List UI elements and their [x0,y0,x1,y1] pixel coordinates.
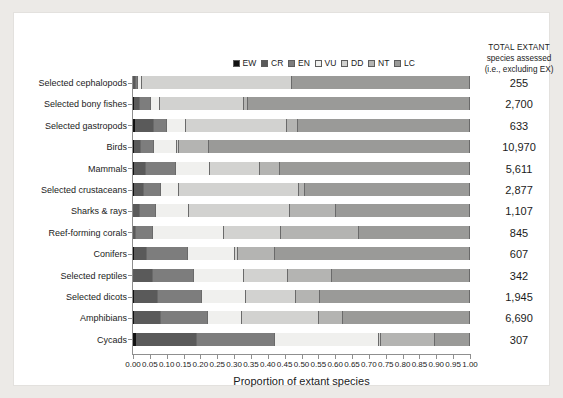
bar-segment-dd [210,162,260,175]
bar-segment-dd [246,290,297,303]
legend-label-lc: LC [404,58,415,68]
bar-segment-lc [305,183,470,196]
bar-segment-en [136,226,153,239]
total-extant-value: 10,970 [477,141,561,153]
y-axis-label: Reef-forming corals [15,228,127,238]
total-extant-value: 342 [477,270,561,282]
legend-swatch-cr-icon [261,60,268,67]
bar-segment-vu [188,247,235,260]
bar-row [133,269,470,282]
bar-segment-en [158,290,202,303]
legend-swatch-en-icon [288,60,295,67]
bar-row [133,333,470,346]
bar-segment-lc [292,76,470,89]
bar-segment-cr [134,290,158,303]
bar-segment-cr [136,333,197,346]
legend-swatch-ew-icon [233,60,240,67]
bar-segment-cr [133,269,153,282]
y-axis-label: Sharks & rays [15,206,127,216]
x-axis-title: Proportion of extant species [133,375,470,387]
bar-row [133,226,470,239]
bar-segment-cr [134,247,147,260]
bar-segment-nt [296,290,320,303]
total-extant-line3: (i.e., excluding EX) [470,64,563,75]
total-extant-value: 1,107 [477,205,561,217]
bar-segment-dd [244,269,288,282]
total-extant-value: 2,877 [477,184,561,196]
y-axis-label: Birds [15,142,127,152]
bar-segment-cr [134,311,161,324]
x-axis-tick [150,355,151,359]
x-axis-tick [285,355,286,359]
x-axis-tick [167,355,168,359]
bar-row [133,204,470,217]
bar-segment-lc [209,140,470,153]
bar-segment-cr [134,162,146,175]
x-axis-tick [234,355,235,359]
bar-row [133,290,470,303]
x-axis-tick [302,355,303,359]
bar-segment-nt [319,311,343,324]
bar-segment-en [146,162,176,175]
bar-segment-lc [248,97,470,110]
bar-segment-lc [343,311,470,324]
bar-row [133,76,470,89]
legend-label-cr: CR [271,58,283,68]
x-axis-tick [335,355,336,359]
bar-segment-en [140,97,150,110]
total-extant-value: 5,611 [477,163,561,175]
bar-segment-lc [280,162,470,175]
y-axis-label: Selected dicots [15,292,127,302]
y-axis-tick [128,125,133,126]
bar-segment-dd [160,97,244,110]
bar-segment-en [161,311,208,324]
y-axis-label: Selected gastropods [15,121,127,131]
legend-swatch-vu-icon [315,60,322,67]
legend-item-dd: DD [341,58,363,68]
bar-segment-lc [332,269,470,282]
plot-area [133,76,470,354]
bar-segment-cr [135,119,154,132]
total-extant-value: 845 [477,227,561,239]
bar-segment-lc [435,333,470,346]
legend-swatch-dd-icon [341,60,348,67]
total-extant-value: 1,945 [477,291,561,303]
x-axis-tick [419,355,420,359]
legend-item-vu: VU [315,58,337,68]
bar-segment-vu [202,290,246,303]
bar-segment-vu [194,269,245,282]
y-axis-tick [128,318,133,319]
legend-item-cr: CR [261,58,283,68]
legend-label-dd: DD [351,58,363,68]
y-axis-tick [128,168,133,169]
bar-row [133,97,470,110]
bar-segment-vu [156,204,190,217]
bar-segment-en [140,204,155,217]
bar-segment-en [141,140,153,153]
bar-segment-nt [179,140,209,153]
x-axis-tick [436,355,437,359]
y-axis-label: Selected reptiles [15,271,127,281]
bar-segment-cr [133,204,140,217]
legend-item-lc: LC [394,58,415,68]
y-axis-label: Amphibians [15,313,127,323]
bar-segment-vu [154,140,178,153]
total-extant-value: 255 [477,77,561,89]
legend-swatch-nt-icon [368,60,375,67]
bar-segment-nt [287,119,299,132]
y-axis-tick [128,297,133,298]
bar-segment-dd [186,119,287,132]
x-axis-tick-label: 1.00 [457,360,483,369]
x-axis-tick [352,355,353,359]
x-axis-tick [184,355,185,359]
bar-segment-dd [179,183,299,196]
chart-legend: EWCRENVUDDNTLC [233,58,415,68]
y-axis-tick [128,190,133,191]
y-axis-label: Selected crustaceans [15,185,127,195]
y-axis-label: Cycads [15,335,127,345]
bar-segment-en [144,183,161,196]
bar-segment-nt [290,204,335,217]
bar-segment-dd [189,204,290,217]
bar-row [133,311,470,324]
bar-segment-nt [381,333,435,346]
